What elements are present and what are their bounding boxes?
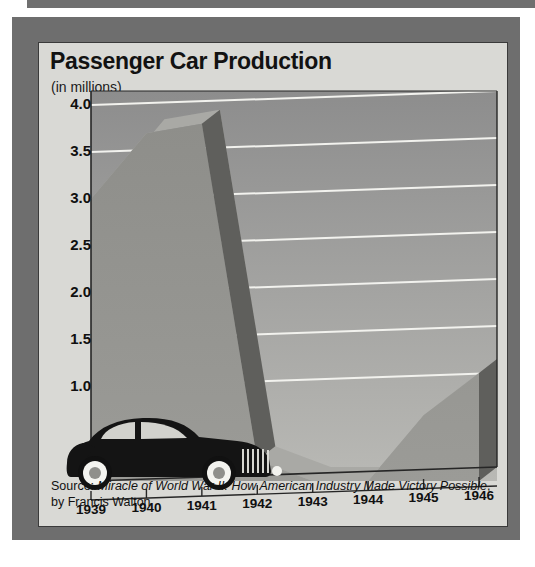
source-prefix: Source:: [51, 479, 98, 493]
figure-page: Passenger Car Production (in millions) 4…: [0, 0, 535, 567]
scan-top-bar: [27, 0, 535, 8]
source-book-title: Miracle of World War II: How American In…: [98, 479, 487, 493]
chart-card: Passenger Car Production (in millions) 4…: [38, 42, 508, 527]
source-note: Source: Miracle of World War II: How Ame…: [51, 479, 499, 511]
figure-frame: Passenger Car Production (in millions) 4…: [12, 17, 520, 540]
scan-white-gap: [0, 8, 535, 17]
x-axis-ticks: 19391940194119421943194419451946: [39, 43, 509, 528]
